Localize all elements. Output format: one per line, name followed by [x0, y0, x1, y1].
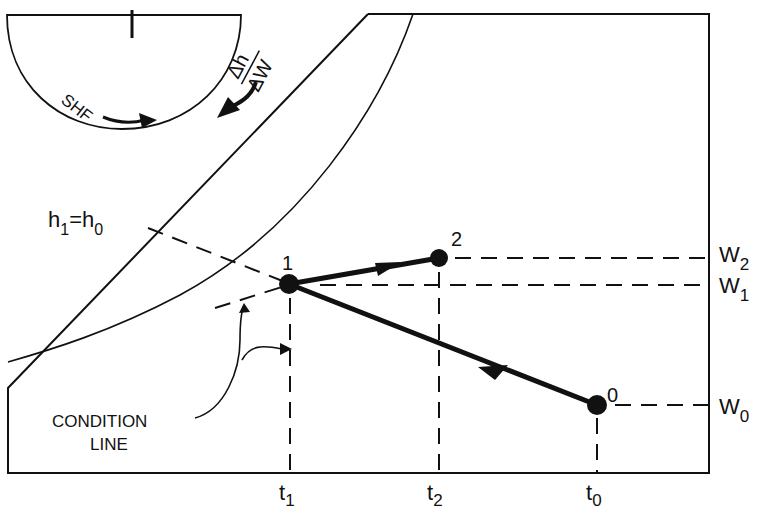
svg-text:t0: t0	[586, 480, 602, 510]
process-arrow-1-2	[375, 262, 401, 276]
construction-lines	[148, 228, 709, 473]
humidity-ratio-labels: W2 W1 W0	[719, 242, 749, 426]
svg-text:h1=h0: h1=h0	[48, 207, 103, 238]
point-label-0: 0	[607, 384, 618, 406]
condition-line-callout: CONDITION LINE	[52, 305, 292, 454]
svg-text:CONDITION: CONDITION	[52, 412, 147, 431]
svg-text:LINE: LINE	[90, 435, 128, 454]
svg-text:t1: t1	[279, 480, 295, 510]
svg-text:W1: W1	[719, 273, 749, 305]
svg-text:t2: t2	[427, 480, 443, 510]
process-lines	[289, 258, 597, 405]
enthalpy-label: h1=h0	[48, 207, 103, 238]
svg-text:W0: W0	[719, 394, 749, 426]
svg-text:W2: W2	[719, 242, 749, 274]
psychrometric-diagram: SHF Δh ΔW 1 2 0 h1=h0 W	[0, 0, 771, 516]
point-label-2: 2	[451, 228, 462, 250]
state-point-2	[430, 249, 448, 267]
state-point-1	[279, 274, 299, 294]
process-arrow-0-1	[478, 365, 508, 380]
shf-arrow-icon	[103, 117, 145, 122]
protractor: SHF Δh ΔW	[7, 10, 280, 129]
state-point-0	[587, 395, 607, 415]
point-label-1: 1	[282, 252, 293, 274]
temperature-labels: t1 t2 t0	[279, 480, 602, 510]
